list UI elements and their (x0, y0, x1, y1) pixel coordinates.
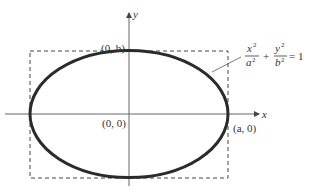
eq-rhs: = 1 (289, 50, 303, 62)
y-axis-label: y (132, 8, 138, 20)
eq-term2-denominator-exp: 2 (281, 56, 285, 64)
point-label-right: (a, 0) (233, 122, 257, 135)
x-axis-label: x (261, 108, 267, 120)
point-label-origin: (0, 0) (102, 117, 126, 130)
point-label-top: (0, b) (101, 42, 125, 55)
equation-leader-line (212, 57, 241, 72)
eq-term2-numerator: y (274, 42, 280, 54)
eq-term1-numerator: x (246, 42, 252, 54)
ellipse-diagram: x y (0, b) (0, 0) (a, 0) x 2 a 2 + y 2 b… (0, 0, 309, 192)
ellipse-equation: x 2 a 2 + y 2 b 2 = 1 (245, 41, 303, 68)
eq-plus: + (263, 50, 269, 62)
eq-term2-numerator-exp: 2 (281, 41, 285, 49)
eq-term1-denominator-exp: 2 (252, 56, 256, 64)
eq-term1-numerator-exp: 2 (253, 41, 257, 49)
